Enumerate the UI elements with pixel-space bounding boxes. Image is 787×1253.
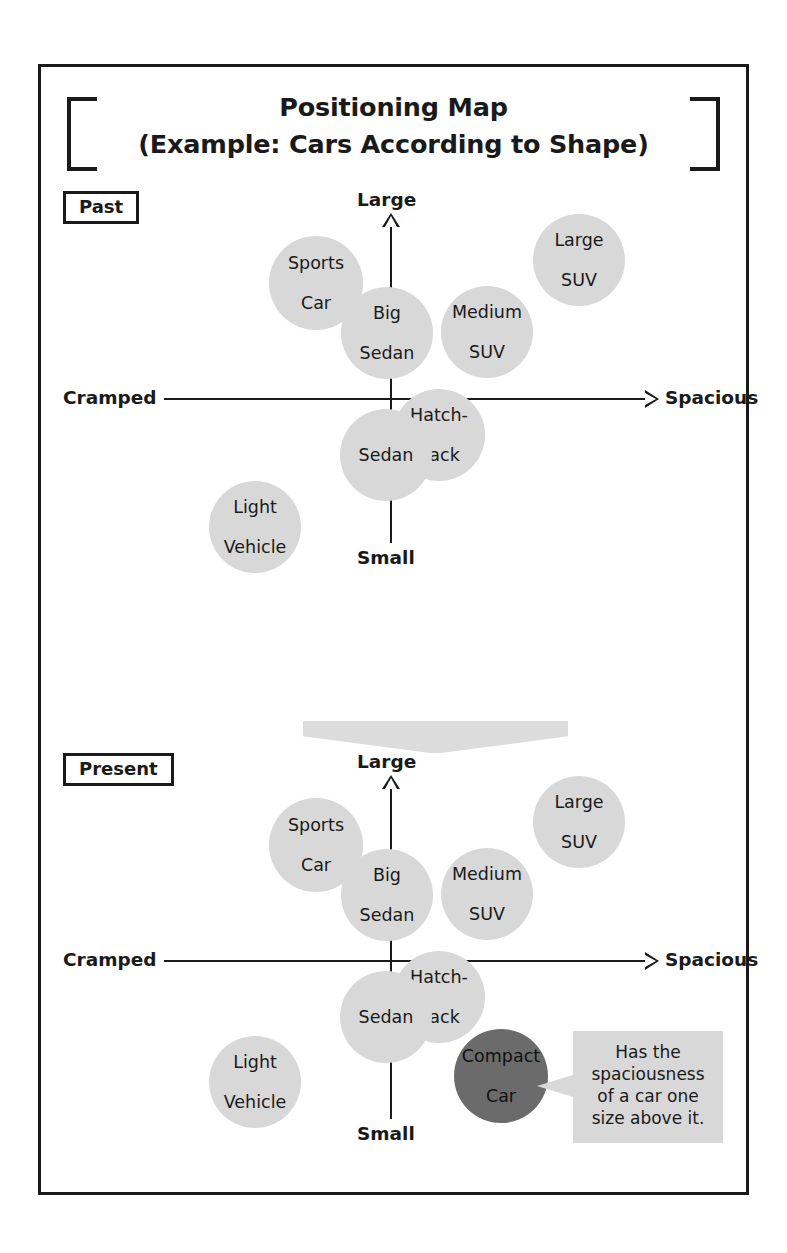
- axis-arrow-up-icon: [382, 775, 400, 789]
- bubble-large-suv[interactable]: LargeSUV: [533, 214, 625, 306]
- bubble-sedan[interactable]: Sedan: [340, 971, 432, 1063]
- chart-panel-present: Present Large Small Cramped Spacious Spo…: [41, 753, 752, 1195]
- transition-chevron-icon: [303, 721, 568, 753]
- bubble-label-line2: Car: [460, 1086, 542, 1106]
- bubble-big-sedan[interactable]: BigSedan: [341, 849, 433, 941]
- bubble-large-suv[interactable]: LargeSUV: [533, 776, 625, 868]
- axis-label-right: Spacious: [665, 387, 758, 408]
- bubble-label-line1: Medium: [450, 302, 524, 322]
- bubble-label-line1: Big: [358, 865, 417, 885]
- axis-label-left: Cramped: [63, 387, 157, 408]
- bubble-label-line2: Vehicle: [222, 537, 289, 557]
- bubble-label-line2: Car: [286, 855, 346, 875]
- chart-panel-past: Past Large Small Cramped Spacious Sports…: [41, 191, 752, 611]
- bubble-label-line2: SUV: [552, 270, 605, 290]
- axis-label-right: Spacious: [665, 949, 758, 970]
- title-line-1: Positioning Map: [279, 92, 508, 122]
- axis-arrow-right-icon: [645, 390, 659, 408]
- bubble-label-line1: Sports: [286, 253, 346, 273]
- bubble-label-line2: Sedan: [358, 905, 417, 925]
- quadrant-plot-past: Large Small Cramped Spacious SportsCar B…: [41, 191, 752, 611]
- callout-line-1: Has the: [615, 1042, 680, 1062]
- bubble-big-sedan[interactable]: BigSedan: [341, 287, 433, 379]
- bubble-label-line1: Big: [358, 303, 417, 323]
- bubble-light-vehicle[interactable]: LightVehicle: [209, 1036, 301, 1128]
- callout-box: Has the spaciousness of a car one size a…: [573, 1031, 723, 1143]
- bubble-label-line1: Large: [552, 230, 605, 250]
- poster-frame: Positioning Map (Example: Cars According…: [38, 64, 749, 1195]
- axis-arrow-up-icon: [382, 213, 400, 227]
- bubble-label-line2: SUV: [450, 904, 524, 924]
- bubble-medium-suv[interactable]: MediumSUV: [441, 286, 533, 378]
- axis-label-left: Cramped: [63, 949, 157, 970]
- bubble-label-line1: Sports: [286, 815, 346, 835]
- bubble-label-line1: Compact: [460, 1046, 542, 1066]
- bubble-label-line1: Large: [552, 792, 605, 812]
- bubble-sedan[interactable]: Sedan: [340, 409, 432, 501]
- bubble-label-line1: Medium: [450, 864, 524, 884]
- axis-label-bottom: Small: [357, 1123, 415, 1144]
- axis-label-top: Large: [357, 189, 416, 210]
- callout-line-2: spaciousness: [591, 1064, 704, 1084]
- bubble-label-line2: Sedan: [358, 343, 417, 363]
- bubble-label-line2: SUV: [552, 832, 605, 852]
- bubble-label-line1: Sedan: [357, 1007, 416, 1027]
- bubble-label-line1: Sedan: [357, 445, 416, 465]
- callout-tail-icon: [537, 1075, 573, 1097]
- bubble-label-line2: Vehicle: [222, 1092, 289, 1112]
- bubble-label-line1: Light: [222, 497, 289, 517]
- bubble-label-line2: Car: [286, 293, 346, 313]
- horizontal-axis: [164, 398, 645, 400]
- bubble-medium-suv[interactable]: MediumSUV: [441, 848, 533, 940]
- axis-arrow-right-icon: [645, 952, 659, 970]
- vertical-axis: [390, 789, 392, 1119]
- page-title: Positioning Map (Example: Cars According…: [41, 89, 746, 163]
- axis-label-top: Large: [357, 751, 416, 772]
- callout-line-3: of a car one: [597, 1086, 698, 1106]
- axis-label-bottom: Small: [357, 547, 415, 568]
- quadrant-plot-present: Large Small Cramped Spacious SportsCar B…: [41, 753, 752, 1195]
- callout-line-4: size above it.: [592, 1108, 705, 1128]
- horizontal-axis: [164, 960, 645, 962]
- bubble-label-line1: Light: [222, 1052, 289, 1072]
- bubble-compact-car[interactable]: CompactCar: [454, 1029, 548, 1123]
- panel-label-present: Present: [63, 753, 174, 786]
- panel-label-past: Past: [63, 191, 139, 224]
- title-line-2: (Example: Cars According to Shape): [41, 126, 746, 163]
- bubble-light-vehicle[interactable]: LightVehicle: [209, 481, 301, 573]
- title-block: Positioning Map (Example: Cars According…: [41, 89, 746, 181]
- bubble-label-line2: SUV: [450, 342, 524, 362]
